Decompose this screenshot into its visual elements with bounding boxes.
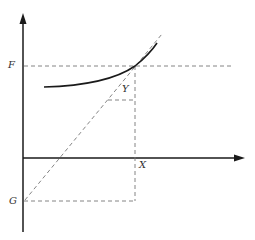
label-Y: Y: [122, 84, 129, 94]
function-curve: [44, 43, 157, 87]
y-axis-arrow-icon: [20, 13, 27, 24]
tangent-line: [25, 34, 162, 200]
x-axis-arrow-icon: [234, 155, 245, 162]
label-F: F: [8, 60, 15, 70]
label-G: G: [9, 196, 17, 206]
label-X: X: [139, 160, 146, 170]
diagram-canvas: [0, 0, 255, 240]
